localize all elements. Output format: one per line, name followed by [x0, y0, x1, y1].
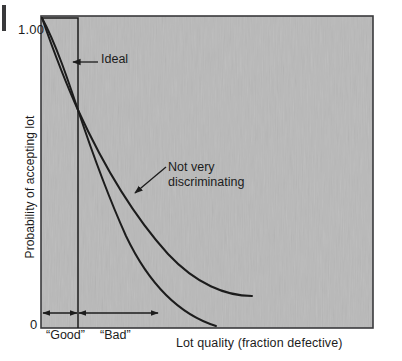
- annotation-not-very-discriminating: Not verydiscriminating: [168, 160, 244, 190]
- range-label-good: “Good”: [46, 328, 85, 342]
- y-axis-tick-top: 1.00: [18, 22, 44, 37]
- annotation-nvd-line2: discriminating: [168, 175, 244, 189]
- y-axis-label: Probability of accepting lot: [23, 87, 37, 287]
- page-crop-mark: [2, 5, 6, 31]
- annotation-nvd-line1: Not very: [168, 160, 215, 174]
- range-label-bad: “Bad”: [100, 328, 131, 342]
- x-axis-label: Lot quality (fraction defective): [176, 336, 342, 350]
- y-axis-tick-bottom: 0: [30, 317, 37, 332]
- annotation-ideal: Ideal: [101, 52, 128, 66]
